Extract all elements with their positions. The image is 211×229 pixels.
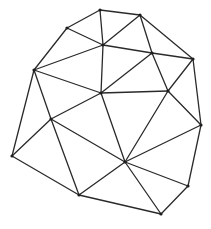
mesh-vertex-K bbox=[10, 154, 13, 157]
mesh-edge-D-K bbox=[12, 70, 34, 156]
mesh-edge-J-K bbox=[12, 119, 51, 156]
mesh-edge-O-P bbox=[161, 186, 188, 214]
mesh-edge-D-J bbox=[34, 70, 51, 119]
mesh-vertex-H bbox=[191, 57, 194, 60]
mesh-edge-H-M bbox=[193, 59, 201, 125]
mesh-edge-G-E bbox=[101, 53, 152, 93]
mesh-edge-I-M bbox=[168, 91, 201, 125]
mesh-edge-C-E bbox=[101, 45, 103, 93]
mesh-vertex-I bbox=[166, 89, 169, 92]
mesh-edge-N-O bbox=[125, 162, 188, 186]
mesh-edge-B-C bbox=[67, 28, 103, 45]
mesh-edge-F-C bbox=[103, 15, 140, 45]
mesh-vertex-P bbox=[159, 212, 162, 215]
mesh-edge-A-F bbox=[100, 10, 140, 15]
mesh-vertex-M bbox=[199, 123, 202, 126]
mesh-vertex-D bbox=[32, 68, 35, 71]
mesh-vertices bbox=[10, 8, 202, 215]
mesh-vertex-N bbox=[123, 160, 126, 163]
mesh-edge-E-N bbox=[101, 93, 125, 162]
mesh-edge-E-I bbox=[101, 91, 168, 93]
mesh-edge-L-N bbox=[79, 162, 125, 195]
mesh-edge-A-C bbox=[100, 10, 103, 45]
mesh-edge-H-I bbox=[168, 59, 193, 91]
mesh-vertex-O bbox=[186, 184, 189, 187]
mesh-edge-G-I bbox=[152, 53, 168, 91]
mesh-vertex-F bbox=[138, 13, 141, 16]
mesh-vertex-J bbox=[49, 117, 52, 120]
mesh-edge-D-E bbox=[34, 70, 101, 93]
mesh-vertex-C bbox=[101, 43, 104, 46]
mesh-edges bbox=[12, 10, 201, 214]
mesh-vertex-L bbox=[77, 193, 80, 196]
mesh-edge-J-L bbox=[51, 119, 79, 195]
mesh-edge-L-P bbox=[79, 195, 161, 214]
mesh-edge-M-O bbox=[188, 125, 201, 186]
mesh-edge-J-N bbox=[51, 119, 125, 162]
triangulation-mesh bbox=[0, 0, 211, 229]
mesh-edge-C-G bbox=[103, 45, 152, 53]
mesh-vertex-A bbox=[98, 8, 101, 11]
mesh-edge-N-P bbox=[125, 162, 161, 214]
mesh-edge-K-L bbox=[12, 156, 79, 195]
mesh-vertex-E bbox=[99, 91, 102, 94]
mesh-edge-E-J bbox=[51, 93, 101, 119]
mesh-vertex-G bbox=[150, 51, 153, 54]
mesh-edge-A-B bbox=[67, 10, 100, 28]
mesh-vertex-B bbox=[65, 26, 68, 29]
